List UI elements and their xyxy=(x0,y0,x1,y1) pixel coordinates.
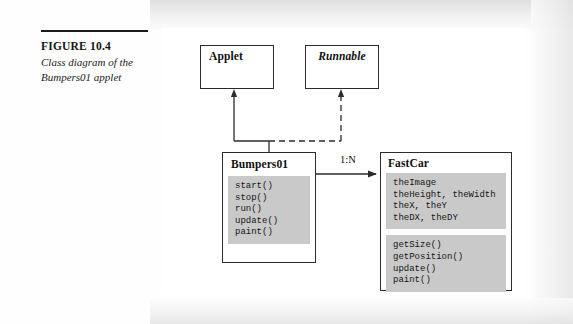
attribute-compartment-fastcar: theImage theHeight, theWidth theX, theY … xyxy=(386,173,506,229)
figure-caption-text: Class diagram of the Bumpers01 applet xyxy=(41,55,153,84)
figure-caption-block: FIGURE 10.4 Class diagram of the Bumpers… xyxy=(41,30,153,84)
method-compartment-bumpers01: start() stop() run() update() paint() xyxy=(228,176,310,244)
scanned-page: FIGURE 10.4 Class diagram of the Bumpers… xyxy=(0,0,573,324)
diagram-panel: Applet Runnable Bumpers01 start() stop()… xyxy=(162,28,525,295)
scan-shading-top xyxy=(150,0,573,30)
class-name-applet: Applet xyxy=(201,46,273,62)
method-compartment-fastcar: getSize() getPosition() update() paint() xyxy=(386,235,506,291)
association-multiplicity-label: 1:N xyxy=(340,154,356,165)
class-box-bumpers01[interactable]: Bumpers01 start() stop() run() update() … xyxy=(222,152,316,263)
figure-number: FIGURE 10.4 xyxy=(41,39,153,53)
class-name-fastcar: FastCar xyxy=(381,153,511,169)
class-name-bumpers01: Bumpers01 xyxy=(223,153,315,170)
scan-shading-right xyxy=(531,0,573,324)
interface-box-runnable[interactable]: Runnable xyxy=(305,45,379,89)
caption-divider-rule xyxy=(41,30,148,32)
interface-name-runnable: Runnable xyxy=(306,46,378,62)
class-box-applet[interactable]: Applet xyxy=(200,45,274,89)
class-box-fastcar[interactable]: FastCar theImage theHeight, theWidth the… xyxy=(380,152,512,291)
scan-shading-bottom xyxy=(150,298,573,324)
